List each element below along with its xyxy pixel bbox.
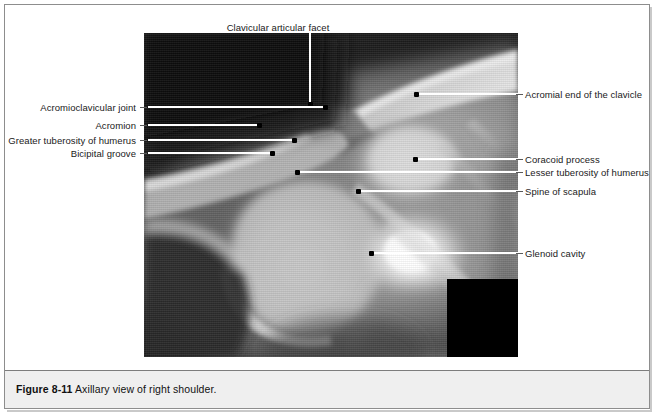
leader-line-coracoid-process: [415, 158, 518, 160]
leader-line-bicipital-groove: [148, 152, 272, 154]
label-lesser-tuberosity-of-humerus: Lesser tuberosity of humerus: [525, 167, 649, 178]
leader-line-lesser-tuberosity-of-humerus: [297, 171, 518, 173]
leader-dot-acromioclavicular-joint: [323, 105, 328, 110]
leader-line-acromion: [148, 124, 259, 126]
page-frame-shadow-bottom: [7, 410, 652, 412]
leader-line-acromioclavicular-joint: [148, 106, 325, 108]
leader-dot-lesser-tuberosity-of-humerus: [295, 170, 300, 175]
leader-dash-greater-tuberosity-of-humerus: [140, 140, 147, 141]
leader-line-spine-of-scapula: [358, 190, 518, 192]
leader-dot-coracoid-process: [413, 157, 418, 162]
leader-dash-glenoid-cavity: [516, 253, 523, 254]
leader-dash-acromion: [140, 125, 147, 126]
radiograph-inset-block: [447, 279, 518, 357]
label-glenoid-cavity: Glenoid cavity: [525, 248, 585, 259]
label-acromion: Acromion: [95, 120, 136, 131]
leader-line-clavicular-articular-facet: [309, 30, 311, 104]
label-greater-tuberosity-of-humerus: Greater tuberosity of humerus: [8, 135, 136, 146]
leader-dot-acromial-end-of-the-clavicle: [414, 92, 419, 97]
radiograph-image: [144, 33, 518, 357]
figure-caption-text: Axillary view of right shoulder.: [75, 383, 217, 395]
label-acromioclavicular-joint: Acromioclavicular joint: [40, 102, 136, 113]
leader-dot-bicipital-groove: [270, 151, 275, 156]
leader-dot-spine-of-scapula: [356, 189, 361, 194]
leader-line-greater-tuberosity-of-humerus: [148, 139, 294, 141]
leader-dot-glenoid-cavity: [369, 251, 374, 256]
leader-line-glenoid-cavity: [371, 252, 518, 254]
leader-dash-acromial-end-of-the-clavicle: [516, 94, 523, 95]
label-acromial-end-of-the-clavicle: Acromial end of the clavicle: [525, 89, 642, 100]
leader-dash-bicipital-groove: [140, 153, 147, 154]
label-bicipital-groove: Bicipital groove: [71, 148, 136, 159]
figure-caption: Figure 8-11 Axillary view of right shoul…: [16, 383, 217, 395]
leader-dash-acromioclavicular-joint: [140, 107, 147, 108]
label-clavicular-articular-facet: Clavicular articular facet: [227, 22, 330, 33]
figure-page: Clavicular articular facetAcromioclavicu…: [0, 0, 656, 415]
leader-dot-greater-tuberosity-of-humerus: [292, 138, 297, 143]
leader-dash-coracoid-process: [516, 159, 523, 160]
leader-line-acromial-end-of-the-clavicle: [416, 93, 518, 95]
leader-dot-acromion: [257, 123, 262, 128]
leader-dash-spine-of-scapula: [516, 191, 523, 192]
page-frame-shadow-right: [650, 7, 652, 412]
figure-number: Figure 8-11: [16, 383, 73, 395]
leader-dash-lesser-tuberosity-of-humerus: [516, 172, 523, 173]
label-coracoid-process: Coracoid process: [525, 154, 600, 165]
label-spine-of-scapula: Spine of scapula: [525, 186, 596, 197]
